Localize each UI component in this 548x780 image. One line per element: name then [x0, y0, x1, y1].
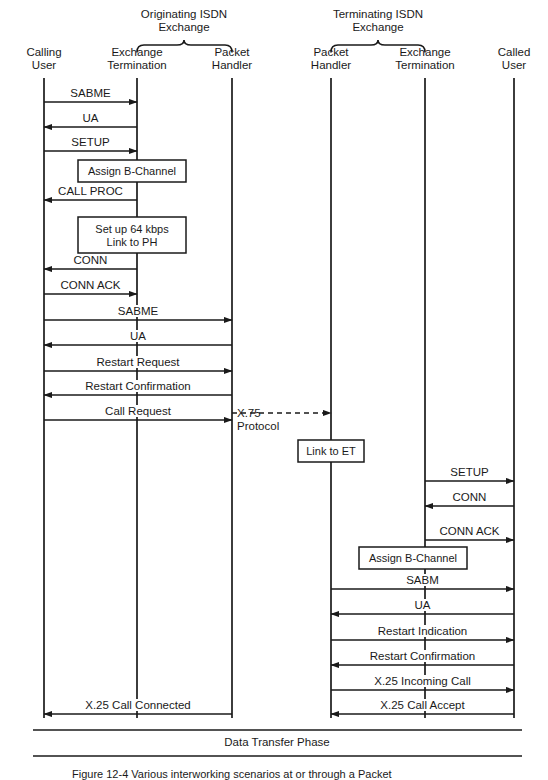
actor-label-line2: Handler: [212, 59, 252, 72]
action-box-label-link-to-et: Link to ET: [306, 445, 356, 458]
group-title-originating-exchange: Originating ISDNExchange: [141, 8, 227, 34]
isdn-x25-sequence-diagram: Originating ISDNExchangeTerminating ISDN…: [0, 0, 548, 780]
message-label-m04: CALL PROC: [55, 185, 126, 197]
actor-label-terminating-exchange-termination: ExchangeTermination: [395, 46, 454, 72]
actor-label-originating-exchange-termination: ExchangeTermination: [107, 46, 166, 72]
x75-protocol-line2: Protocol: [237, 420, 279, 433]
message-label-m01: SABME: [67, 87, 113, 99]
message-label-m15: CONN ACK: [436, 525, 502, 537]
action-box-line1: Link to ET: [306, 445, 356, 458]
exchange-brace-group: [137, 40, 425, 52]
message-label-m07: SABME: [115, 305, 161, 317]
action-box-line1: Assign B-Channel: [369, 552, 457, 565]
actor-label-line2: Termination: [107, 59, 166, 72]
action-box-line1: Assign B-Channel: [88, 165, 176, 178]
message-label-m16: SABM: [403, 574, 442, 586]
actor-label-line1: Calling: [26, 46, 61, 59]
actor-label-called-user: CalledUser: [498, 46, 531, 72]
message-label-m21: X.25 Call Accept: [377, 699, 467, 711]
message-label-m13: SETUP: [447, 466, 491, 478]
action-box-line2: Link to PH: [95, 235, 168, 248]
actor-label-line1: Exchange: [395, 46, 454, 59]
actor-label-line2: User: [26, 59, 61, 72]
actor-label-line2: Termination: [395, 59, 454, 72]
message-label-m14: CONN: [450, 491, 490, 503]
message-label-m19: Restart Confirmation: [367, 650, 478, 662]
actor-label-calling-user: CallingUser: [26, 46, 61, 72]
action-box-label-assign-b-channel-terminating: Assign B-Channel: [369, 552, 457, 565]
message-label-m02: UA: [80, 112, 102, 124]
message-label-m08: UA: [127, 330, 149, 342]
actor-label-originating-packet-handler: PacketHandler: [212, 46, 252, 72]
group-title-line1: Originating ISDN: [141, 8, 227, 21]
group-title-line2: Exchange: [141, 21, 227, 34]
message-label-m17: UA: [412, 599, 434, 611]
message-label-m09: Restart Request: [93, 356, 182, 368]
x75-protocol-label: X.75Protocol: [237, 407, 279, 432]
message-label-m20: X.25 Incoming Call: [371, 675, 474, 687]
actor-label-line1: Called: [498, 46, 531, 59]
actor-label-line1: Packet: [212, 46, 252, 59]
message-label-m22: X.25 Call Connected: [82, 699, 193, 711]
phase-bar-label: Data Transfer Phase: [224, 736, 329, 748]
actor-label-line2: User: [498, 59, 531, 72]
message-label-m11: Call Request: [102, 405, 174, 417]
action-box-line1: Set up 64 kbps: [95, 223, 168, 236]
group-title-line2: Exchange: [333, 21, 423, 34]
x75-protocol-line1: X.75: [237, 407, 279, 420]
message-label-m03: SETUP: [68, 136, 112, 148]
actor-label-line1: Packet: [311, 46, 351, 59]
actor-label-line1: Exchange: [107, 46, 166, 59]
actor-label-line2: Handler: [311, 59, 351, 72]
action-box-label-setup-64kbps-link-to-ph: Set up 64 kbpsLink to PH: [95, 223, 168, 248]
message-label-m10: Restart Confirmation: [82, 380, 193, 392]
group-title-terminating-exchange: Terminating ISDNExchange: [333, 8, 423, 34]
action-box-label-assign-b-channel-originating: Assign B-Channel: [88, 165, 176, 178]
group-title-line1: Terminating ISDN: [333, 8, 423, 21]
message-label-m06: CONN ACK: [57, 279, 123, 291]
figure-caption: Figure 12-4 Various interworking scenari…: [72, 768, 392, 780]
message-label-m18: Restart Indication: [375, 625, 471, 637]
actor-label-terminating-packet-handler: PacketHandler: [311, 46, 351, 72]
message-label-m05: CONN: [71, 254, 111, 266]
